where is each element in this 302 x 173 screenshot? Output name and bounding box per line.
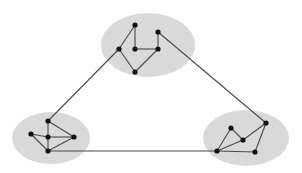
node-H [28, 131, 33, 136]
edge-B-G [48, 49, 119, 121]
clustered-graph-diagram [0, 0, 302, 173]
node-J [71, 134, 76, 139]
graph-canvas [0, 0, 302, 173]
node-O [214, 148, 219, 153]
cluster-layer [12, 13, 289, 166]
node-N [240, 137, 245, 142]
node-K [45, 148, 50, 153]
cluster-top [101, 13, 195, 77]
node-B [116, 46, 121, 51]
edge-D-L [158, 32, 266, 123]
node-M [228, 125, 233, 130]
node-A [132, 22, 137, 27]
node-I [45, 134, 50, 139]
node-L [263, 120, 268, 125]
node-F [132, 69, 137, 74]
node-C [132, 46, 137, 51]
node-E [155, 46, 160, 51]
node-G [45, 118, 50, 123]
cluster-left [12, 112, 90, 164]
node-D [155, 29, 160, 34]
node-P [252, 149, 257, 154]
